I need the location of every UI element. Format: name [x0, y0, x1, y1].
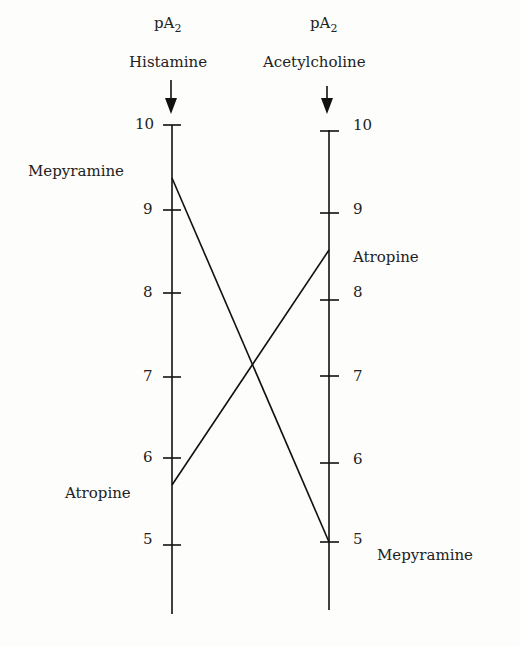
right-tick-6: 6 [353, 452, 363, 467]
left-tick-5: 5 [143, 532, 153, 547]
left-axis-histamine [163, 125, 181, 614]
right-tick-10: 10 [353, 118, 372, 133]
atropine-line [172, 250, 329, 485]
right-mepyramine-label: Mepyramine [377, 548, 473, 563]
right-tick-9: 9 [353, 202, 363, 217]
left-atropine-label: Atropine [65, 486, 131, 501]
left-tick-6: 6 [143, 450, 153, 465]
right-tick-8: 8 [353, 285, 363, 300]
left-tick-9: 9 [143, 202, 153, 217]
right-atropine-label: Atropine [353, 250, 419, 265]
right-tick-7: 7 [353, 369, 363, 384]
mepyramine-line [172, 178, 329, 542]
right-tick-5: 5 [353, 532, 363, 547]
left-arrow-icon [165, 80, 177, 114]
left-mepyramine-label: Mepyramine [28, 164, 124, 179]
right-axis-acetylcholine [320, 130, 339, 610]
left-tick-8: 8 [143, 285, 153, 300]
left-tick-7: 7 [143, 369, 153, 384]
right-arrow-icon [321, 86, 333, 114]
left-tick-10: 10 [135, 117, 154, 132]
